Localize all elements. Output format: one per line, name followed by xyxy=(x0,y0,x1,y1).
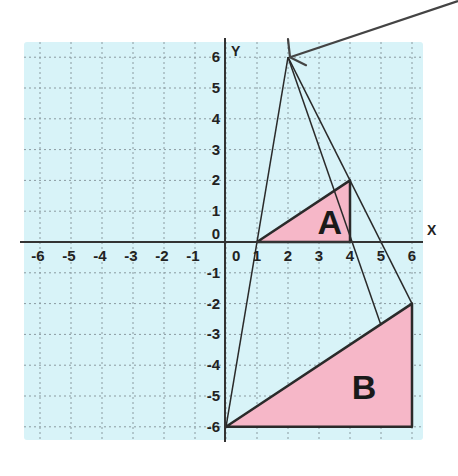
x-tick-label: -6 xyxy=(31,247,44,264)
x-tick-label: 4 xyxy=(346,247,355,264)
y-tick-label: -6 xyxy=(207,418,220,435)
x-tick-label: -2 xyxy=(155,247,168,264)
x-tick-label: 1 xyxy=(253,247,261,264)
x-tick-label: -3 xyxy=(124,247,137,264)
y-tick-label: 3 xyxy=(212,141,220,158)
x-tick-label: 5 xyxy=(377,247,385,264)
y-tick-label: 5 xyxy=(212,79,220,96)
y-tick-label: 0 xyxy=(212,225,220,242)
y-axis-label: Y xyxy=(231,43,241,59)
x-tick-label: 3 xyxy=(315,247,323,264)
x-tick-label: 6 xyxy=(408,247,416,264)
y-tick-label: -2 xyxy=(207,295,220,312)
x-axis-label: X xyxy=(427,222,437,238)
x-tick-label: -4 xyxy=(93,247,107,264)
coordinate-diagram: AB XY -6-5-4-3-2-101234566543210-1-2-3-4… xyxy=(0,0,458,476)
x-tick-label: 0 xyxy=(232,247,240,264)
y-tick-label: -4 xyxy=(207,356,221,373)
y-tick-label: -5 xyxy=(207,387,220,404)
x-tick-label: 2 xyxy=(284,247,292,264)
x-tick-label: -5 xyxy=(62,247,75,264)
y-tick-label: -1 xyxy=(207,264,220,281)
y-tick-label: 2 xyxy=(212,171,220,188)
y-tick-label: 1 xyxy=(212,202,220,219)
shape-label-b: B xyxy=(352,368,377,406)
y-tick-label: -3 xyxy=(207,325,220,342)
shape-label-a: A xyxy=(318,203,343,241)
y-tick-label: 4 xyxy=(212,110,221,127)
x-tick-label: -1 xyxy=(186,247,199,264)
y-tick-label: 6 xyxy=(212,48,220,65)
